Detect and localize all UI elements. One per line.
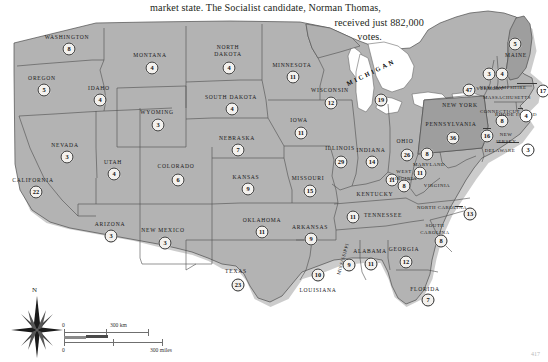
state-label-new-hampshire: NEW HAMPSHIRE (479, 85, 526, 90)
electoral-votes-mississippi: 9 (343, 259, 356, 272)
compass-rose: N (8, 286, 66, 358)
electoral-votes-delaware: 3 (522, 144, 535, 157)
scale-tick-km-end (148, 329, 149, 336)
scale-tick-mi-mid (113, 339, 114, 346)
state-label-new-york: NEW YORK (442, 102, 478, 108)
electoral-votes-oklahoma: 11 (256, 226, 269, 239)
electoral-votes-montana: 4 (146, 62, 159, 75)
electoral-votes-kansas: 9 (242, 183, 255, 196)
electoral-votes-utah: 4 (108, 168, 121, 181)
leader-line-new-jersey (483, 128, 491, 129)
state-label-oregon: OREGON (28, 75, 56, 81)
scale-segment-open (64, 336, 86, 339)
electoral-votes-arkansas: 9 (305, 233, 318, 246)
electoral-votes-north-dakota: 4 (223, 62, 236, 75)
state-label-kentucky: KENTUCKY (357, 191, 394, 197)
scale-tick-mi-end (162, 339, 163, 346)
state-label-colorado: COLORADO (157, 163, 194, 169)
state-label-missouri: MISSOURI (292, 175, 325, 181)
page-number: 417 (531, 351, 540, 357)
electoral-votes-minnesota: 11 (287, 71, 300, 84)
electoral-votes-new-mexico: 3 (159, 237, 172, 250)
electoral-votes-iowa: 11 (295, 127, 308, 140)
state-label-new-jersey: NEWJERSEY (496, 131, 516, 145)
scale-bar: 0 300 km 0 300 miles (62, 322, 212, 358)
state-label-maryland: MARYLAND (413, 162, 445, 167)
state-label-new-mexico: NEW MEXICO (141, 227, 185, 233)
state-label-pennsylvania: PENNSYLVANIA (426, 121, 477, 127)
map-page: market state. The Socialist candidate, N… (0, 0, 548, 362)
state-label-delaware: DELAWARE (485, 148, 516, 153)
electoral-votes-tennessee: 11 (347, 211, 360, 224)
electoral-votes-washington: 8 (63, 43, 76, 56)
state-label-tennessee: TENNESSEE (364, 212, 402, 218)
electoral-votes-wyoming: 3 (152, 119, 165, 132)
state-label-ohio: OHIO (397, 138, 414, 144)
us-electoral-map: .land { fill:#b3b3b3; stroke:#4d4d4d; st… (0, 8, 548, 328)
electoral-votes-california: 22 (30, 186, 43, 199)
state-label-florida: FLORIDA (410, 286, 440, 292)
electoral-votes-pennsylvania: 36 (447, 132, 460, 145)
electoral-votes-alabama: 11 (365, 258, 378, 271)
electoral-votes-rhode-island: 4 (520, 110, 533, 123)
state-label-oklahoma: OKLAHOMA (243, 217, 282, 223)
electoral-votes-vermont: 3 (483, 68, 496, 81)
state-label-alabama: ALABAMA (353, 248, 387, 254)
state-label-nebraska: NEBRASKA (219, 135, 255, 141)
electoral-votes-wisconsin: 12 (325, 97, 338, 110)
electoral-votes-florida: 7 (422, 294, 435, 307)
electoral-votes-west-virginia: 8 (398, 180, 411, 193)
electoral-votes-texas: 23 (232, 279, 245, 292)
electoral-votes-arizona: 3 (105, 230, 118, 243)
state-label-california: CALIFORNIA (12, 177, 53, 183)
state-label-wyoming: WYOMING (140, 109, 174, 115)
state-label-texas: TEXAS (225, 268, 247, 274)
state-label-nevada: NEVADA (51, 142, 78, 148)
electoral-votes-illinois: 29 (335, 156, 348, 169)
state-label-south-carolina: SOUTHCAROLINA (420, 222, 449, 236)
electoral-votes-oregon: 5 (38, 84, 51, 97)
electoral-votes-idaho: 4 (94, 94, 107, 107)
electoral-votes-massachusetts: 17 (537, 85, 548, 98)
state-label-iowa: IOWA (290, 117, 308, 123)
electoral-votes-new-hampshire: 4 (496, 68, 509, 81)
scale-miles-zero-label: 0 (62, 347, 65, 353)
state-label-south-dakota: SOUTH DAKOTA (205, 94, 257, 100)
scale-km-label: 300 km (110, 322, 127, 328)
state-label-north-dakota: NORTHDAKOTA (214, 44, 242, 58)
electoral-votes-maryland: 8 (421, 148, 434, 161)
scale-miles-label: 300 miles (150, 347, 172, 353)
electoral-votes-michigan: 19 (375, 94, 388, 107)
state-label-louisiana: LOUISIANA (299, 287, 336, 293)
state-label-arizona: ARIZONA (95, 221, 125, 227)
electoral-votes-georgia: 12 (400, 256, 413, 269)
state-label-maine: MAINE (505, 52, 527, 58)
electoral-votes-nebraska: 7 (232, 144, 245, 157)
electoral-votes-new-york: 47 (463, 84, 476, 97)
electoral-votes-colorado: 6 (172, 174, 185, 187)
scale-tick-mi-0 (64, 339, 65, 346)
scale-segment-filled (86, 335, 108, 338)
scale-km-zero-label: 0 (62, 322, 65, 328)
electoral-votes-new-jersey: 16 (481, 130, 494, 143)
state-label-georgia: GEORGIA (389, 246, 419, 252)
electoral-votes-south-dakota: 4 (226, 103, 239, 116)
electoral-votes-ohio: 26 (401, 149, 414, 162)
state-label-virginia: VIRGINIA (424, 183, 450, 188)
leader-line-massachusetts (517, 83, 537, 84)
state-label-kansas: KANSAS (233, 174, 260, 180)
electoral-votes-south-carolina: 8 (435, 235, 448, 248)
state-label-arkansas: ARKANSAS (292, 224, 328, 230)
state-label-indiana: INDIANA (356, 147, 385, 153)
state-label-washington: WASHINGTON (45, 34, 90, 40)
state-label-north-carolina: NORTH CAROLINA (417, 205, 467, 210)
map-geometry: .land { fill:#b3b3b3; stroke:#4d4d4d; st… (0, 8, 548, 328)
compass-north-label: N (32, 286, 37, 294)
electoral-votes-north-carolina: 13 (464, 208, 477, 221)
electoral-votes-maine: 5 (509, 38, 522, 51)
electoral-votes-indiana: 14 (366, 156, 379, 169)
state-label-utah: UTAH (104, 159, 122, 165)
electoral-votes-missouri: 15 (304, 185, 317, 198)
state-label-idaho: IDAHO (88, 85, 110, 91)
compass-star-icon (8, 286, 66, 358)
